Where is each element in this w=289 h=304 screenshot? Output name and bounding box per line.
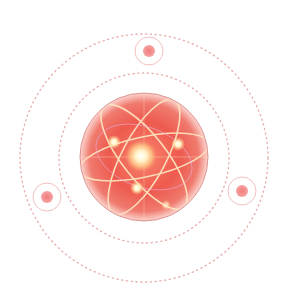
nucleus xyxy=(125,140,157,172)
electron xyxy=(161,200,171,210)
satellite-top xyxy=(135,37,163,65)
electron xyxy=(130,181,144,195)
satellite-left xyxy=(33,183,61,211)
electron xyxy=(171,137,185,151)
atom-graphic xyxy=(0,0,289,304)
atom-illustration xyxy=(0,0,289,304)
atom-sphere xyxy=(75,90,212,224)
satellite-right xyxy=(228,177,256,205)
electron xyxy=(107,135,121,149)
